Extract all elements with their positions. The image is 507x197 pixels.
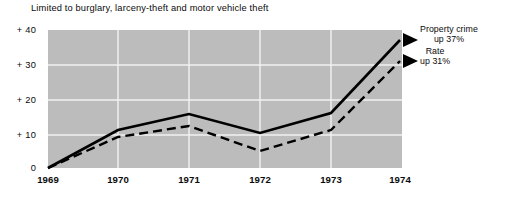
annotation-property-crime-title: Property crime <box>420 24 478 34</box>
annotation-property-crime: Property crime up 37% <box>420 24 478 44</box>
annotation-rate-value: up 31% <box>420 56 450 66</box>
annotation-rate: Rate up 31% <box>420 46 450 66</box>
x-axis-tick-1971: 1971 <box>166 174 212 185</box>
plot-background <box>48 30 402 168</box>
x-axis-tick-1974: 1974 <box>377 174 423 185</box>
x-axis-tick-1969: 1969 <box>25 174 71 185</box>
left-triangle-marker-rate <box>403 54 418 68</box>
annotation-rate-title: Rate <box>420 46 450 56</box>
annotation-property-crime-value: up 37% <box>420 34 478 44</box>
crime-trend-chart: Limited to burglary, larceny-theft and m… <box>0 0 507 197</box>
x-axis-tick-1972: 1972 <box>237 174 283 185</box>
x-axis-tick-1970: 1970 <box>95 174 141 185</box>
x-axis-tick-1973: 1973 <box>308 174 354 185</box>
left-triangle-marker-property-crime <box>403 33 418 47</box>
